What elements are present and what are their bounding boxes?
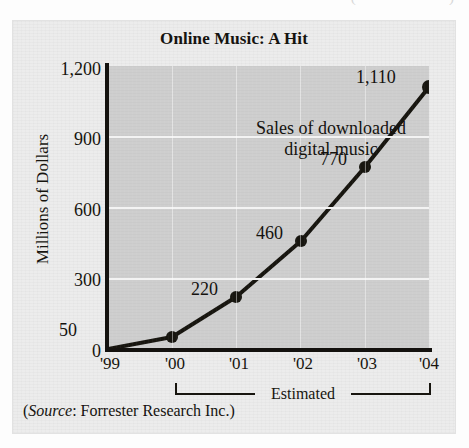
gridline-600 [108,207,429,209]
y-tick-1200: 1,200 [15,60,101,78]
data-label-1110: 1,110 [356,68,396,86]
gridline-year-01 [236,66,237,349]
x-tick-99: '99 [80,354,140,374]
data-label-460: 460 [256,224,283,242]
data-label-220: 220 [191,280,218,298]
x-axis-tick-labels: '99 '00 '01 '02 '03 '04 [13,354,455,378]
x-tick-02: '02 [273,354,333,374]
plot-annotation-line-1: Sales of downloaded [226,118,429,139]
gridline-year-00 [172,66,173,349]
gridline-year-03 [365,66,366,349]
plot-area: Sales of downloaded digital music [108,66,429,349]
y-axis-title: Millions of Dollars [33,89,53,309]
x-tick-01: '01 [209,354,269,374]
gridline-year-02 [300,66,301,349]
source-note: (Source: Forrester Research Inc.) [23,402,235,420]
y-tick-300: 300 [15,271,101,289]
y-tick-600: 600 [15,201,101,219]
y-axis-line [105,63,109,352]
data-point-02 [295,235,307,247]
y-tick-900: 900 [15,130,101,148]
gridline-300 [108,278,429,280]
x-tick-00: '00 [145,354,205,374]
data-label-770: 770 [320,150,347,168]
source-body: : Forrester Research Inc.) [72,402,235,419]
data-label-50: 50 [59,321,77,339]
figure-panel: Online Music: A Hit 1,200 900 600 300 0 … [13,21,455,433]
x-tick-03: '03 [337,354,397,374]
x-tick-04: '04 [399,354,459,374]
x-axis-line [105,348,432,352]
page-bleed-text: (··· · ····· ····) [0,0,469,5]
source-italic-word: Source [28,402,72,419]
